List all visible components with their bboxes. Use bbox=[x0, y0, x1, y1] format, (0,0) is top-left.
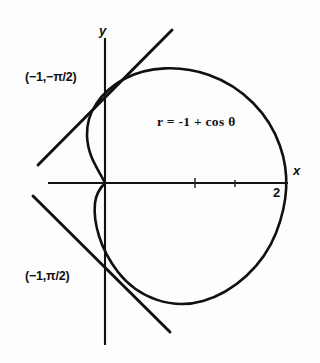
y-axis-label: y bbox=[99, 24, 106, 37]
equation-label: r = -1 + cos θ bbox=[157, 115, 236, 129]
tangent-line-lower bbox=[33, 196, 170, 332]
tangent-point-upper-label: (−1,−π/2) bbox=[25, 71, 77, 84]
x-axis-label: x bbox=[293, 164, 300, 177]
cardioid-plot-canvas bbox=[0, 0, 320, 363]
figure-container: y x 2 (−1,−π/2) (−1,π/2) r = -1 + cos θ bbox=[0, 0, 320, 363]
x-axis-tick-label-2: 2 bbox=[273, 186, 280, 199]
tangent-point-lower-label: (−1,π/2) bbox=[25, 270, 69, 283]
cardioid-curve bbox=[87, 68, 286, 304]
